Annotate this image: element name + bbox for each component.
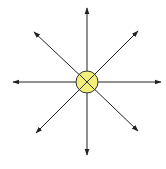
radial-arrows-diagram (0, 0, 166, 169)
arrow-north-east (95, 31, 138, 74)
source-circle (76, 71, 98, 93)
arrow-south-east (95, 90, 138, 131)
arrow-north-west (34, 32, 79, 74)
arrow-south-west (36, 90, 79, 133)
